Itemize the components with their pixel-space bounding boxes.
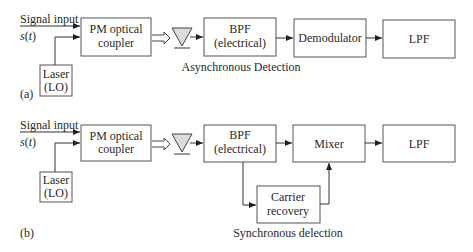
optical-path-arrow-icon: [152, 138, 170, 150]
photodetector-icon: [172, 134, 192, 154]
photodetector-icon: [172, 28, 192, 48]
signal-input-label: Signal input: [20, 12, 79, 26]
optical-path-arrow-icon: [152, 32, 170, 44]
bpf-sub-label: (electrical): [214, 142, 266, 156]
lo-label: (LO): [44, 80, 68, 94]
caption-synchronous: Synchronous delection: [233, 226, 343, 240]
recovery-label: recovery: [267, 204, 309, 218]
coupler-label-2: coupler: [98, 142, 134, 156]
lpf-label: LPF: [409, 32, 430, 46]
laser-to-coupler-arrow: [55, 143, 80, 172]
bpf-sub-label: (electrical): [214, 36, 266, 50]
coupler-label-2: coupler: [98, 36, 134, 50]
lpf-label: LPF: [409, 137, 430, 151]
lo-label: (LO): [44, 186, 68, 200]
mixer-label: Mixer: [314, 137, 343, 151]
coupler-label-1: PM optical: [90, 129, 144, 143]
signal-input-label: Signal input: [20, 118, 79, 132]
panel-label-a: (a): [20, 87, 33, 101]
caption-asynchronous: Asynchronous Detection: [182, 60, 301, 74]
demodulator-label: Demodulator: [298, 31, 361, 45]
detection-diagram: Signal input s(t) Laser (LO) (a) PM opti…: [0, 0, 473, 252]
panel-label-b: (b): [20, 226, 34, 240]
coupler-label-1: PM optical: [90, 22, 144, 36]
signal-symbol: s(t): [20, 135, 36, 149]
bpf-label: BPF: [229, 22, 251, 36]
carrier-label: Carrier: [271, 190, 305, 204]
bpf-label: BPF: [229, 128, 251, 142]
laser-label: Laser: [43, 67, 70, 81]
diagram-b: Signal input s(t) Laser (LO) (b) PM opti…: [20, 118, 455, 240]
signal-symbol: s(t): [20, 29, 36, 43]
bpf-to-carrier-recovery-arrow: [243, 162, 256, 205]
diagram-a: Signal input s(t) Laser (LO) (a) PM opti…: [20, 12, 455, 101]
laser-label: Laser: [43, 173, 70, 187]
laser-to-coupler-arrow: [55, 37, 80, 65]
carrier-recovery-to-mixer-arrow: [320, 163, 329, 204]
